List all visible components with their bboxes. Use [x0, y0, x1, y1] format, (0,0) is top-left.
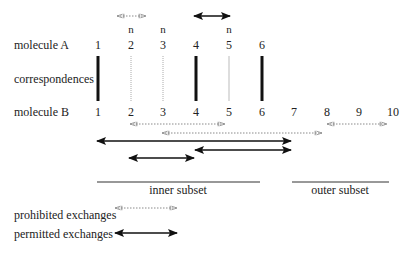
diagram-graphics	[0, 0, 409, 256]
